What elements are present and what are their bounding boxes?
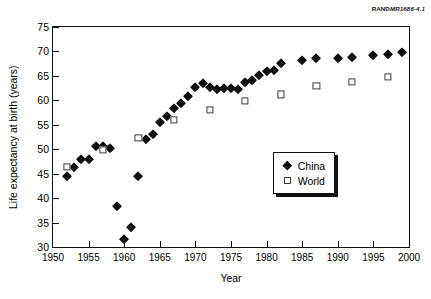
x-axis-tick-label: 1950 xyxy=(42,252,64,263)
x-axis-tick-label: 1970 xyxy=(184,252,206,263)
data-point-china xyxy=(233,84,242,93)
x-axis-tick-label: 1975 xyxy=(220,252,242,263)
x-axis-tick xyxy=(160,241,161,247)
data-point-china xyxy=(84,154,93,163)
y-axis-tick-label: 75 xyxy=(37,21,49,33)
x-axis-tick-label: 1965 xyxy=(149,252,171,263)
source-credit: RANDMR1686-4.1 xyxy=(372,5,425,12)
legend-label: China xyxy=(298,160,325,172)
plot-area: 3035404550556065707519501955196019651970… xyxy=(52,26,410,248)
data-point-china xyxy=(176,98,185,107)
data-point-china xyxy=(141,135,150,144)
y-axis-tick xyxy=(53,149,59,150)
x-axis-tick-label: 1995 xyxy=(362,252,384,263)
y-axis-tick-label: 60 xyxy=(37,94,49,106)
x-axis-tick xyxy=(267,241,268,247)
x-axis-tick-label: 1980 xyxy=(255,252,277,263)
x-axis-tick xyxy=(231,241,232,247)
x-axis-tick-label: 1960 xyxy=(113,252,135,263)
y-axis-tick-label: 55 xyxy=(37,119,49,131)
data-point-world xyxy=(64,164,71,171)
y-axis-tick xyxy=(53,198,59,199)
y-axis-tick-label: 40 xyxy=(37,192,49,204)
data-point-world xyxy=(170,116,177,123)
legend-item-china: China xyxy=(281,158,325,173)
y-axis-title: Life expectancy at birth (years) xyxy=(7,26,19,248)
x-axis-tick-label: 1955 xyxy=(77,252,99,263)
data-point-china xyxy=(155,117,164,126)
data-point-china xyxy=(269,65,278,74)
x-axis-title: Year xyxy=(52,272,410,284)
data-points-layer xyxy=(53,27,409,247)
y-axis-tick xyxy=(53,100,59,101)
data-point-china xyxy=(127,222,136,231)
y-axis-tick xyxy=(53,174,59,175)
x-axis-tick xyxy=(302,241,303,247)
y-axis-tick-label: 45 xyxy=(37,168,49,180)
data-point-world xyxy=(277,91,284,98)
y-axis-tick xyxy=(53,223,59,224)
diamond-icon xyxy=(281,162,295,169)
data-point-china xyxy=(134,171,143,180)
credit-prefix: RAND xyxy=(372,5,390,12)
x-axis-tick xyxy=(124,241,125,247)
chart-legend: ChinaWorld xyxy=(273,152,335,194)
y-axis-tick-label: 70 xyxy=(37,45,49,57)
y-axis-tick xyxy=(53,76,59,77)
data-point-china xyxy=(333,54,342,63)
chart-figure: RANDMR1686-4.1 Life expectancy at birth … xyxy=(0,0,431,299)
data-point-world xyxy=(206,107,213,114)
x-axis-tick-label: 2000 xyxy=(398,252,420,263)
data-point-china xyxy=(383,49,392,58)
data-point-china xyxy=(347,52,356,61)
square-icon xyxy=(281,177,295,184)
data-point-china xyxy=(298,55,307,64)
data-point-china xyxy=(312,54,321,63)
x-axis-tick xyxy=(373,241,374,247)
x-axis-tick xyxy=(89,241,90,247)
data-point-world xyxy=(99,146,106,153)
y-axis-tick xyxy=(53,51,59,52)
legend-label: World xyxy=(298,175,325,187)
y-axis-tick xyxy=(53,247,59,248)
y-axis-tick-label: 35 xyxy=(37,217,49,229)
data-point-world xyxy=(313,82,320,89)
data-point-world xyxy=(135,134,142,141)
x-axis-tick xyxy=(195,241,196,247)
y-axis-tick xyxy=(53,125,59,126)
data-point-china xyxy=(184,91,193,100)
x-axis-tick-label: 1990 xyxy=(327,252,349,263)
y-axis-tick xyxy=(53,27,59,28)
data-point-china xyxy=(369,50,378,59)
data-point-china xyxy=(63,171,72,180)
data-point-china xyxy=(397,47,406,56)
data-point-china xyxy=(276,58,285,67)
x-axis-tick-label: 1985 xyxy=(291,252,313,263)
x-axis-tick xyxy=(338,241,339,247)
data-point-china xyxy=(105,144,114,153)
data-point-world xyxy=(348,78,355,85)
legend-item-world: World xyxy=(281,173,325,188)
credit-code: MR1686-4.1 xyxy=(390,5,425,12)
data-point-china xyxy=(70,163,79,172)
data-point-china xyxy=(112,202,121,211)
y-axis-tick-label: 65 xyxy=(37,70,49,82)
data-point-world xyxy=(384,73,391,80)
y-axis-tick-label: 50 xyxy=(37,143,49,155)
data-point-world xyxy=(242,98,249,105)
